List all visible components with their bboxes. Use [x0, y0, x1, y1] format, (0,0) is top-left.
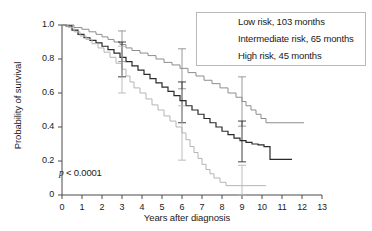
x-tick-12: 12 — [294, 202, 310, 212]
x-tick-1: 1 — [74, 202, 90, 212]
survival-chart: Probability of survival Years after diag… — [0, 0, 372, 231]
x-tick-3: 3 — [114, 202, 130, 212]
y-tick-0.4: 0.4 — [28, 121, 54, 131]
y-axis-label: Probability of survival — [12, 36, 23, 176]
legend-label-low: Low risk, 103 months — [238, 16, 325, 27]
x-tick-6: 6 — [174, 202, 190, 212]
legend-entry-intermediate: Intermediate risk, 65 months — [197, 33, 365, 48]
legend-label-high: High risk, 45 months — [238, 50, 322, 61]
x-tick-9: 9 — [234, 202, 250, 212]
y-tick-0.6: 0.6 — [28, 87, 54, 97]
p-value-annotation: p < 0.0001 — [59, 167, 102, 178]
x-axis-label: Years after diagnosis — [62, 212, 312, 223]
x-tick-11: 11 — [274, 202, 290, 212]
y-tick-0.8: 0.8 — [28, 53, 54, 63]
y-tick-0: 0 — [28, 189, 54, 199]
legend-entry-low: Low risk, 103 months — [197, 16, 365, 31]
x-tick-8: 8 — [214, 202, 230, 212]
x-tick-7: 7 — [194, 202, 210, 212]
x-tick-4: 4 — [134, 202, 150, 212]
x-tick-13: 13 — [314, 202, 330, 212]
x-tick-0: 0 — [54, 202, 70, 212]
legend-label-intermediate: Intermediate risk, 65 months — [238, 33, 354, 44]
x-tick-10: 10 — [254, 202, 270, 212]
y-tick-0.2: 0.2 — [28, 155, 54, 165]
x-tick-2: 2 — [94, 202, 110, 212]
legend: Low risk, 103 months Intermediate risk, … — [196, 12, 366, 66]
x-tick-5: 5 — [154, 202, 170, 212]
p-value-text: < 0.0001 — [64, 167, 102, 178]
y-tick-1.0: 1.0 — [28, 19, 54, 29]
legend-entry-high: High risk, 45 months — [197, 50, 365, 65]
